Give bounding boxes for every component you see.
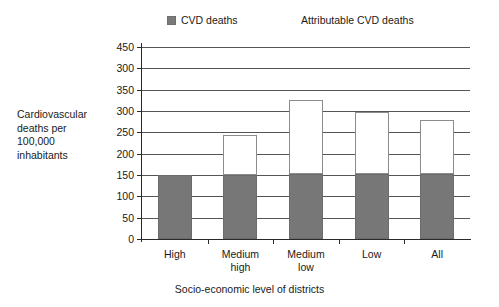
x-axis-tick-label-line: All [399, 248, 475, 261]
legend-label-cvd-deaths: CVD deaths [181, 14, 238, 26]
legend-label-attributable-cvd-deaths: Attributable CVD deaths [301, 14, 414, 26]
x-axis-tick [404, 239, 405, 244]
bar-column [420, 120, 454, 239]
y-axis-tick [137, 90, 142, 91]
y-axis-tick [137, 132, 142, 133]
y-axis-tick [137, 154, 142, 155]
bar-column [289, 100, 323, 239]
y-axis-tick-label: 450 [98, 42, 134, 52]
x-axis-tick-label-line: low [268, 261, 344, 274]
y-axis-tick [137, 218, 142, 219]
x-axis-tick [273, 239, 274, 244]
legend-item-attributable-cvd-deaths: Attributable CVD deaths [287, 14, 414, 26]
y-axis-tick-label: 300 [98, 63, 134, 73]
gridline [142, 47, 470, 48]
y-axis-tick [137, 175, 142, 176]
legend-swatch-attributable-cvd-deaths [287, 16, 296, 25]
x-axis-tick-label: Low [334, 248, 410, 261]
y-axis-tick-label: 200 [98, 149, 134, 159]
bar-segment-cvd-deaths [355, 174, 389, 239]
x-axis-line [141, 239, 471, 240]
gridline [142, 68, 470, 69]
bar-segment-cvd-deaths [158, 175, 192, 239]
bar-segment-attributable-cvd-deaths [289, 100, 323, 174]
y-axis-tick-label: 350 [98, 85, 134, 95]
y-axis-title: Cardiovascular deaths per 100,000 inhabi… [17, 108, 109, 162]
bar-column [158, 175, 192, 239]
y-axis-title-line-2: deaths per [17, 122, 109, 136]
x-axis-tick-label-line: high [202, 261, 278, 274]
bar-segment-cvd-deaths [420, 174, 454, 239]
bar-segment-attributable-cvd-deaths [420, 120, 454, 173]
y-axis-tick-label: 250 [98, 127, 134, 137]
y-axis-line [141, 43, 142, 242]
y-axis-tick-label: 0 [98, 234, 134, 244]
x-axis-title: Socio-economic level of districts [0, 283, 499, 295]
x-axis-tick [208, 239, 209, 244]
bar-column [223, 135, 257, 239]
plot-area: 450300350300250200150100500 HighMediumhi… [142, 47, 470, 239]
y-axis-title-line-1: Cardiovascular [17, 108, 109, 122]
bar-segment-attributable-cvd-deaths [355, 112, 389, 174]
x-axis-tick-label-line: Medium [268, 248, 344, 261]
y-axis-tick-label: 50 [98, 213, 134, 223]
x-axis-tick-label-line: Medium [202, 248, 278, 261]
legend-item-cvd-deaths: CVD deaths [167, 14, 238, 26]
bar-column [355, 112, 389, 239]
y-axis-tick [137, 196, 142, 197]
chart-legend: CVD deaths Attributable CVD deaths [0, 14, 499, 30]
bar-segment-cvd-deaths [223, 175, 257, 239]
gridline [142, 90, 470, 91]
x-axis-tick-label: All [399, 248, 475, 261]
y-axis-tick [137, 68, 142, 69]
x-axis-tick-label: Mediumlow [268, 248, 344, 273]
x-axis-tick [339, 239, 340, 244]
y-axis-tick [137, 47, 142, 48]
x-axis-tick-label: Mediumhigh [202, 248, 278, 273]
x-axis-tick-label-line: Low [334, 248, 410, 261]
bar-segment-attributable-cvd-deaths [223, 135, 257, 175]
legend-swatch-cvd-deaths [167, 16, 176, 25]
y-axis-tick-label: 150 [98, 170, 134, 180]
bar-segment-cvd-deaths [289, 174, 323, 239]
y-axis-tick [137, 111, 142, 112]
y-axis-title-line-4: inhabitants [17, 149, 109, 163]
y-axis-tick-label: 300 [98, 106, 134, 116]
y-axis-title-line-3: 100,000 [17, 135, 109, 149]
y-axis-tick-label: 100 [98, 191, 134, 201]
